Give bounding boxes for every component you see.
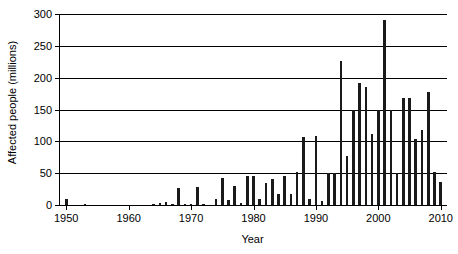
bar xyxy=(233,186,236,205)
x-axis-tick-label: 1950 xyxy=(54,213,78,224)
chart-figure: Affected people (millions) 0501001502002… xyxy=(0,0,458,254)
bar xyxy=(171,204,174,205)
bar-series xyxy=(60,14,447,205)
bar xyxy=(439,182,442,205)
bar xyxy=(258,199,261,205)
bar xyxy=(427,92,430,205)
y-axis-tick-label: 150 xyxy=(34,104,52,115)
x-axis-tick xyxy=(378,205,379,210)
bar xyxy=(283,176,286,205)
bar xyxy=(271,179,274,205)
bar xyxy=(346,156,349,205)
bar xyxy=(352,110,355,205)
bar xyxy=(358,83,361,205)
y-axis-tick xyxy=(55,205,60,206)
x-axis-title: Year xyxy=(59,232,446,246)
bar xyxy=(340,61,343,205)
bar xyxy=(290,194,293,205)
bar xyxy=(421,130,424,205)
bar xyxy=(84,204,87,205)
y-axis-tick-label: 0 xyxy=(46,200,52,211)
bar xyxy=(252,176,255,205)
bar xyxy=(433,172,436,205)
x-axis-tick xyxy=(316,205,317,210)
y-axis-title: Affected people (millions) xyxy=(4,0,20,205)
bar xyxy=(184,204,187,205)
bar xyxy=(240,203,243,205)
bar xyxy=(227,200,230,205)
x-axis-tick-label: 2000 xyxy=(366,213,390,224)
bar xyxy=(327,173,330,205)
bar xyxy=(196,187,199,205)
x-axis-tick xyxy=(66,205,67,210)
bar xyxy=(396,173,399,205)
bar xyxy=(302,137,305,205)
plot-area: 050100150200250300 195019601970198019902… xyxy=(59,14,447,206)
x-axis-tick-label: 1990 xyxy=(304,213,328,224)
bar xyxy=(321,201,324,205)
bar xyxy=(221,178,224,205)
bar xyxy=(277,194,280,205)
x-axis-tick xyxy=(129,205,130,210)
bar xyxy=(265,183,268,205)
bar xyxy=(377,110,380,205)
bar xyxy=(371,134,374,205)
x-axis-tick xyxy=(441,205,442,210)
bar xyxy=(383,20,386,205)
bar xyxy=(215,199,218,205)
bar xyxy=(315,136,318,205)
bar xyxy=(402,98,405,205)
y-axis-tick-label: 50 xyxy=(40,168,52,179)
y-axis-tick-label: 200 xyxy=(34,72,52,83)
bar xyxy=(246,176,249,205)
bar xyxy=(390,110,393,205)
bar xyxy=(177,188,180,205)
x-axis-tick xyxy=(191,205,192,210)
bar xyxy=(296,172,299,205)
bar xyxy=(365,87,368,205)
bar xyxy=(159,203,162,205)
x-axis-tick-label: 1970 xyxy=(179,213,203,224)
x-axis-tick-label: 1960 xyxy=(116,213,140,224)
x-axis-tick xyxy=(254,205,255,210)
y-axis-tick-label: 300 xyxy=(34,9,52,20)
bar xyxy=(202,204,205,205)
x-axis-tick-label: 1980 xyxy=(241,213,265,224)
y-axis-tick-label: 100 xyxy=(34,136,52,147)
x-axis-tick-label: 2010 xyxy=(429,213,453,224)
bar xyxy=(414,139,417,205)
bar xyxy=(308,199,311,205)
bar xyxy=(165,202,168,205)
bar xyxy=(408,98,411,205)
bar xyxy=(152,204,155,205)
bar xyxy=(333,173,336,205)
y-axis-tick-label: 250 xyxy=(34,40,52,51)
